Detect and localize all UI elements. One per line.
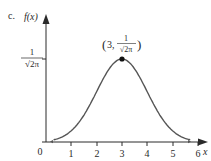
peak-annotation: ( 3, 1 √2π ) [102, 34, 141, 54]
x-ticks [71, 142, 198, 146]
x-tick-2: 2 [95, 148, 100, 159]
x-tick-labels: 0 1 2 3 4 5 6 [38, 146, 201, 159]
x-axis-arrow-icon [198, 139, 208, 146]
annotation-denominator: √2π [120, 45, 132, 54]
curve-left-arrow-icon [50, 140, 53, 143]
annotation-open-paren: ( [102, 37, 106, 52]
annotation-close-paren: ) [137, 37, 141, 52]
x-tick-6: 6 [196, 148, 201, 159]
peak-point [119, 56, 124, 61]
part-label: c. [8, 10, 15, 21]
normal-curve-chart: c. f(x) x 0 1 2 3 4 5 6 1 √2π ( 3, 1 [0, 0, 211, 161]
x-tick-1: 1 [69, 148, 74, 159]
curve-right-arrow-icon [188, 140, 191, 143]
y-tick-label: 1 √2π [21, 47, 43, 69]
x-tick-4: 4 [145, 148, 150, 159]
x-tick-3: 3 [120, 148, 125, 159]
annotation-numerator: 1 [124, 34, 128, 43]
annotation-x-value: 3, [107, 39, 115, 50]
y-tick-numerator: 1 [30, 47, 35, 57]
x-tick-5: 5 [171, 148, 176, 159]
x-axis-label: x [202, 146, 208, 157]
y-axis-label: f(x) [24, 11, 39, 23]
x-tick-0: 0 [38, 146, 43, 157]
y-axis-arrow-icon [43, 14, 50, 24]
normal-density-curve [54, 59, 191, 140]
y-tick-denominator: √2π [25, 59, 39, 69]
